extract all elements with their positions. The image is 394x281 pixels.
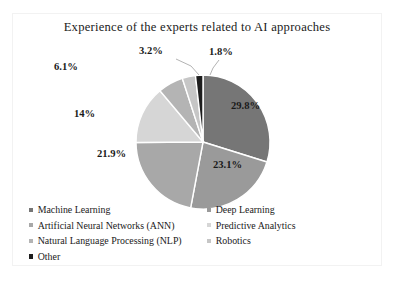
pie-slice (136, 142, 203, 208)
legend-swatch-icon (207, 208, 211, 212)
pie-slices (136, 75, 270, 209)
legend-swatch-icon (29, 239, 33, 243)
legend-item[interactable]: Other (29, 251, 207, 262)
legend-item-label: Other (38, 251, 60, 262)
legend-item[interactable]: Robotics (207, 235, 369, 246)
slice-label-other: 1.8% (209, 47, 233, 58)
chart-legend: Machine LearningDeep LearningArtificial … (29, 202, 369, 264)
chart-frame: Experience of the experts related to AI … (12, 13, 382, 266)
slice-label-deep-learning: 23.1% (213, 160, 242, 171)
legend-item[interactable]: Natural Language Processing (NLP) (29, 235, 207, 246)
legend-swatch-icon (29, 254, 33, 258)
legend-item-label: Natural Language Processing (NLP) (38, 235, 182, 246)
slice-label-nlp: 6.1% (54, 62, 78, 73)
leader-line-robotics (176, 59, 199, 75)
slice-label-robotics: 3.2% (139, 46, 163, 57)
legend-item-label: Artificial Neural Networks (ANN) (38, 220, 175, 231)
legend-item[interactable]: Deep Learning (207, 204, 369, 215)
legend-item-label: Predictive Analytics (216, 220, 296, 231)
slice-label-predictive-analytics: 14% (74, 109, 95, 120)
legend-item[interactable]: Machine Learning (29, 204, 207, 215)
legend-item-label: Robotics (216, 235, 251, 246)
leader-line-other (210, 60, 219, 75)
slice-label-ann: 21.9% (97, 149, 126, 160)
legend-item[interactable]: Predictive Analytics (207, 220, 369, 231)
legend-item-label: Machine Learning (38, 204, 111, 215)
legend-swatch-icon (29, 208, 33, 212)
legend-item[interactable]: Artificial Neural Networks (ANN) (29, 220, 207, 231)
legend-swatch-icon (207, 223, 211, 227)
legend-item-label: Deep Learning (216, 204, 275, 215)
legend-swatch-icon (29, 223, 33, 227)
slice-label-machine-learning: 29.8% (231, 101, 260, 112)
legend-swatch-icon (207, 239, 211, 243)
